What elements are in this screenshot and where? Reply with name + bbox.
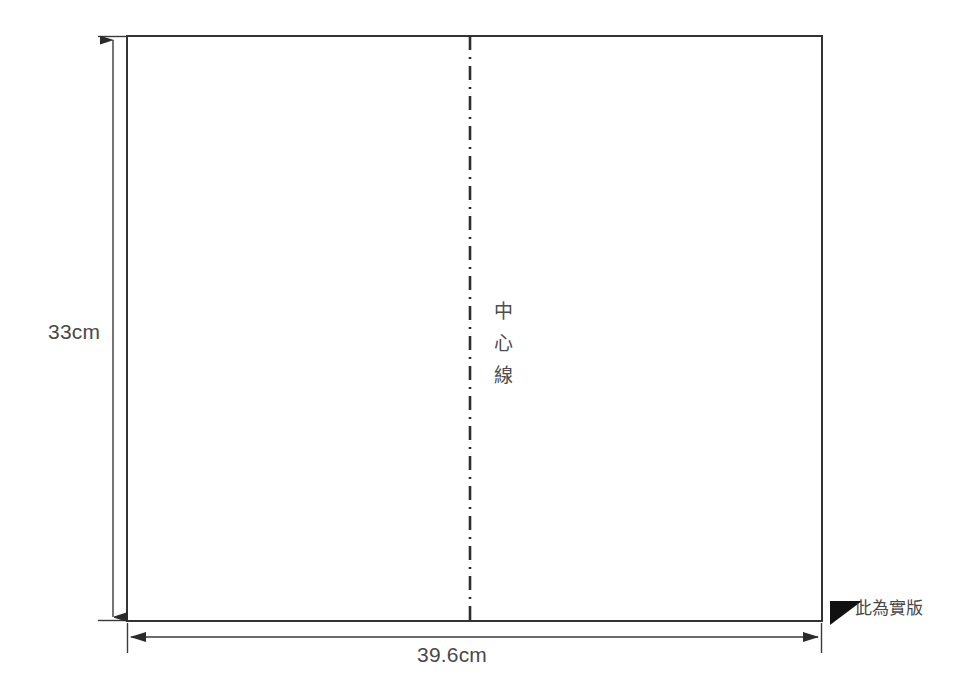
center-line-label-char-2: 心 — [494, 334, 513, 353]
center-line-label: 中 心 線 — [488, 302, 518, 385]
technical-drawing-canvas: 33cm 39.6cm 中 心 線 此為實版 — [0, 0, 976, 699]
height-dimension-label: 33cm — [48, 320, 100, 344]
center-line-label-char-3: 線 — [494, 366, 513, 385]
actual-size-note-text: 此為實版 — [855, 600, 923, 617]
sheet-rectangle — [127, 36, 822, 621]
width-dimension-label: 39.6cm — [417, 643, 487, 667]
center-line-label-char-1: 中 — [494, 302, 513, 321]
